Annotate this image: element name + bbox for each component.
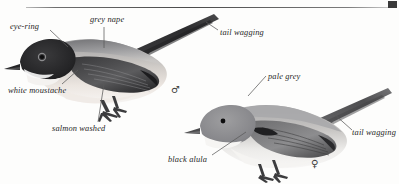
female-eye	[221, 119, 226, 124]
label-salmon-washed: salmon washed	[52, 124, 108, 134]
illustration-plate: eye-ring grey nape tail wagging white mo…	[0, 0, 399, 184]
label-tail-wagging-female: tail wagging	[350, 128, 396, 138]
label-tail-wagging-male: tail wagging	[220, 28, 264, 38]
female-sex-symbol: ♀	[311, 158, 318, 169]
corner-mark	[388, 1, 397, 8]
label-pale-grey: pale grey	[268, 72, 300, 82]
label-grey-nape: grey nape	[90, 15, 124, 25]
label-eye-ring: eye-ring	[10, 22, 39, 32]
label-black-alula: black alula	[168, 155, 207, 165]
male-sex-symbol: ♂	[171, 84, 180, 95]
label-white-moustache: white moustache	[8, 86, 72, 96]
